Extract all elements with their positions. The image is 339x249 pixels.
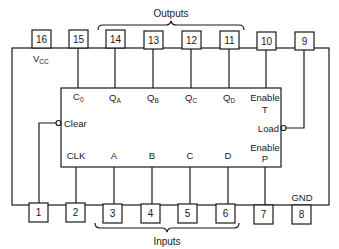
inputs-label: Inputs: [153, 236, 180, 247]
pin-6: 6: [216, 204, 235, 223]
label-gnd: GND: [291, 192, 312, 203]
label-enable-p-letter: P: [262, 153, 268, 164]
inputs-brace: [95, 223, 239, 232]
label-qb: QB: [147, 92, 159, 104]
label-qd: QD: [223, 92, 235, 104]
pin-15: 15: [69, 30, 88, 48]
pin-13: 13: [144, 31, 163, 49]
label-enable-p: Enable: [250, 142, 280, 153]
pin-number: 8: [299, 209, 305, 220]
pin-number: 16: [36, 34, 48, 45]
pin-number: 9: [302, 36, 308, 47]
load-inversion-bubble: [281, 126, 286, 131]
pin-number: 5: [185, 208, 191, 219]
label-c0: C0: [73, 91, 84, 103]
pin-number: 4: [148, 208, 154, 219]
clear-inversion-bubble: [56, 121, 61, 126]
pin-10: 10: [257, 32, 276, 50]
pin-3: 3: [103, 204, 122, 223]
label-enable-t-letter: T: [262, 104, 268, 115]
pin-4: 4: [141, 204, 160, 223]
pin-number: 2: [73, 207, 79, 218]
pin-14: 14: [106, 30, 125, 48]
ic-pinout-diagram: Outputs Inputs 16 15 14 13 12 11: [0, 0, 339, 249]
logic-block: [61, 88, 281, 167]
pin-number: 12: [186, 35, 198, 46]
outputs-brace: [98, 21, 244, 30]
pin-9: 9: [295, 32, 314, 50]
label-d: D: [225, 150, 232, 161]
label-qc: QC: [185, 92, 197, 104]
pin-2: 2: [66, 203, 85, 222]
lead-pin-1: [39, 123, 56, 205]
pin-number: 6: [223, 208, 229, 219]
pin-number: 13: [148, 35, 160, 46]
pin-number: 7: [261, 209, 267, 220]
pin-16: 16: [32, 30, 51, 48]
label-a: A: [111, 150, 118, 161]
label-b: B: [149, 150, 155, 161]
label-enable-t: Enable: [250, 92, 280, 103]
pin-1: 1: [29, 203, 48, 222]
pin-number: 11: [224, 35, 235, 46]
lead-pin-9: [286, 48, 304, 128]
outputs-label: Outputs: [153, 8, 188, 19]
pin-number: 15: [73, 34, 85, 45]
pin-number: 3: [110, 208, 116, 219]
pin-5: 5: [178, 204, 197, 223]
label-c: C: [187, 150, 194, 161]
pin-number: 1: [36, 207, 42, 218]
label-vcc: VCC: [33, 53, 49, 65]
label-clk: CLK: [67, 150, 86, 161]
pin-8: 8: [292, 205, 311, 224]
label-load: Load: [258, 123, 279, 134]
label-clear: Clear: [64, 118, 87, 129]
pin-number: 10: [261, 36, 273, 47]
label-qa: QA: [109, 92, 121, 104]
pin-12: 12: [182, 31, 201, 49]
pin-7: 7: [254, 205, 273, 224]
pin-number: 14: [110, 34, 122, 45]
pin-11: 11: [220, 31, 239, 49]
